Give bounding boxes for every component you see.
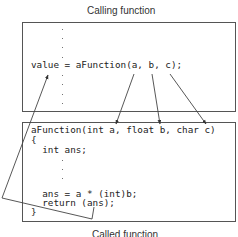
arrow-c (170, 74, 206, 124)
arrow-b (152, 74, 160, 124)
return-arrow (2, 75, 94, 219)
arrows-layer (0, 0, 238, 237)
arrow-a (116, 74, 134, 124)
